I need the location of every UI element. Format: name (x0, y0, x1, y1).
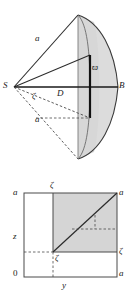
bottom-diagram-panel: a ζ a z ζ ζ 0 y a (0, 155, 130, 305)
label-inner-zeta: ζ (55, 254, 58, 263)
label-axis-top-right-a: a (119, 188, 124, 197)
label-side-a-upper: a (35, 34, 40, 43)
label-side-a-lower: a (35, 115, 40, 124)
label-point-d: D (57, 89, 64, 98)
label-varpi: ϖ (92, 63, 98, 72)
label-origin: 0 (13, 269, 18, 278)
label-axis-bottom-right-a: a (119, 269, 124, 278)
top-diagram-svg (0, 0, 130, 160)
label-right-zeta: ζ (119, 247, 122, 256)
label-axis-bottom-y: y (62, 281, 66, 290)
top-diagram-panel: a a S D B ζ ϖ (0, 0, 130, 160)
label-vertex-s: S (3, 81, 8, 90)
label-point-b: B (119, 81, 125, 90)
label-axis-left-z: z (13, 232, 17, 241)
label-axis-top-zeta: ζ (50, 181, 53, 190)
cone-generator-upper (14, 15, 78, 87)
label-angle-zeta: ζ (32, 92, 35, 101)
figure-root: a a S D B ζ ϖ a (0, 0, 130, 305)
cone-generator-lower-dashed (14, 87, 78, 159)
label-axis-top-left-a: a (13, 188, 18, 197)
